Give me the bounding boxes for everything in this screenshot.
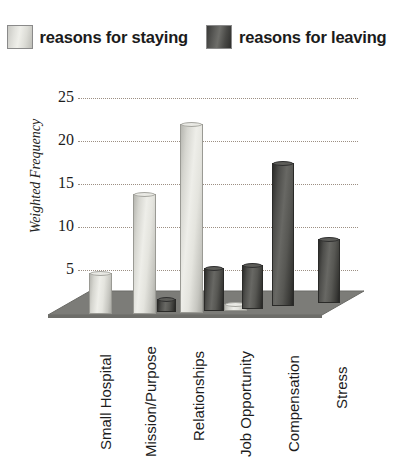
- bar-cap-icon: [181, 122, 202, 127]
- bar-leaving-relationships: [204, 268, 224, 311]
- x-axis-label-compensation: Compensation: [285, 355, 302, 452]
- bar-leaving-stress: [318, 239, 340, 303]
- x-axis-label-mission-purpose: Mission/Purpose: [142, 346, 159, 457]
- bar-cap-icon: [158, 297, 175, 302]
- x-axis-label-relationships: Relationships: [190, 351, 207, 441]
- bar-cap-icon: [134, 192, 155, 197]
- x-axis-label-job-opportunity: Job Opportunity: [237, 351, 254, 457]
- bar-cap-icon: [205, 266, 223, 271]
- bar-staying-small-hospital: [89, 273, 112, 314]
- bar-cap-icon: [243, 263, 262, 268]
- bar-leaving-job-opportunity: [242, 265, 263, 309]
- chart-container: reasons for staying reasons for leaving …: [0, 0, 393, 464]
- x-axis-label-small-hospital: Small Hospital: [97, 354, 114, 450]
- x-axis-label-stress: Stress: [333, 366, 350, 409]
- bar-leaving-mission-purpose: [157, 299, 176, 312]
- bar-cap-icon: [319, 237, 339, 242]
- bar-staying-relationships: [180, 124, 203, 313]
- bar-cap-icon: [273, 161, 293, 166]
- bar-leaving-compensation: [272, 163, 294, 306]
- bar-cap-icon: [90, 271, 111, 276]
- plot-area: Weighted Frequency 25 20 15 10 5 0: [0, 0, 393, 464]
- bar-staying-mission-purpose: [133, 194, 156, 314]
